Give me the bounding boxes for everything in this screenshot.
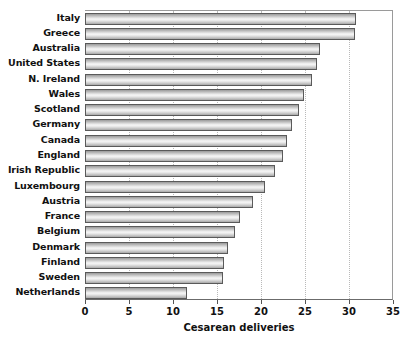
x-axis: 05101520253035 xyxy=(85,300,393,340)
x-tick-15 xyxy=(217,300,218,304)
category-label: Canada xyxy=(41,132,80,148)
x-tick-label: 35 xyxy=(386,306,400,317)
plot-area xyxy=(85,10,393,300)
category-label: N. Ireland xyxy=(28,71,80,87)
bar xyxy=(85,196,253,208)
x-tick-label: 30 xyxy=(342,306,356,317)
category-label: Irish Republic xyxy=(8,162,80,178)
x-tick-label: 10 xyxy=(166,306,180,317)
bar xyxy=(85,13,356,25)
category-axis-labels: ItalyGreeceAustraliaUnited StatesN. Irel… xyxy=(0,10,83,300)
x-tick-35 xyxy=(393,300,394,304)
bar xyxy=(85,43,320,55)
bar xyxy=(85,135,287,147)
bar xyxy=(85,287,187,299)
x-tick-label: 15 xyxy=(210,306,224,317)
bar xyxy=(85,181,265,193)
category-label: Australia xyxy=(33,40,80,56)
bar xyxy=(85,150,283,162)
x-tick-0 xyxy=(85,300,86,304)
x-tick-label: 20 xyxy=(254,306,268,317)
category-label: Austria xyxy=(42,193,80,209)
x-axis-title: Cesarean deliveries xyxy=(85,322,393,333)
bar xyxy=(85,272,223,284)
category-label: Finland xyxy=(41,254,80,270)
category-label: France xyxy=(45,208,80,224)
bar xyxy=(85,28,355,40)
bar xyxy=(85,89,304,101)
bar xyxy=(85,165,275,177)
category-label: Sweden xyxy=(39,269,80,285)
x-tick-label: 25 xyxy=(298,306,312,317)
category-label: Wales xyxy=(49,86,80,102)
x-tick-25 xyxy=(305,300,306,304)
category-label: Luxembourg xyxy=(14,178,80,194)
x-tick-5 xyxy=(129,300,130,304)
category-label: Italy xyxy=(57,10,80,26)
bar xyxy=(85,257,224,269)
bar xyxy=(85,58,317,70)
bar xyxy=(85,104,299,116)
gridline-30 xyxy=(349,11,350,299)
x-tick-20 xyxy=(261,300,262,304)
bar xyxy=(85,74,312,86)
category-label: Scotland xyxy=(34,101,80,117)
x-tick-label: 0 xyxy=(82,306,89,317)
x-tick-10 xyxy=(173,300,174,304)
category-label: Greece xyxy=(43,25,80,41)
bar xyxy=(85,226,235,238)
cesarean-deliveries-bar-chart: ItalyGreeceAustraliaUnited StatesN. Irel… xyxy=(0,0,406,340)
category-label: United States xyxy=(8,55,80,71)
category-label: Denmark xyxy=(32,239,80,255)
category-label: Belgium xyxy=(37,223,80,239)
bar xyxy=(85,119,292,131)
category-label: Netherlands xyxy=(15,284,80,300)
category-label: Germany xyxy=(33,116,81,132)
bar xyxy=(85,211,240,223)
category-label: England xyxy=(37,147,80,163)
x-tick-label: 5 xyxy=(126,306,133,317)
bar xyxy=(85,242,228,254)
x-tick-30 xyxy=(349,300,350,304)
